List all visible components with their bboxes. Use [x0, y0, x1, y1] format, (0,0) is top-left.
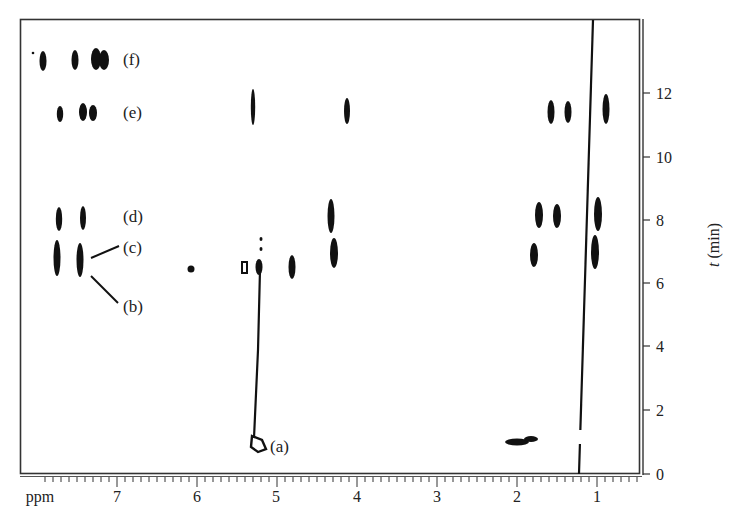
label-c: (c) — [123, 238, 142, 257]
leader-line-b — [91, 276, 118, 303]
y-axis-title: t (min) — [705, 223, 723, 267]
nmr-contour-chart: 0 2 4 6 8 10 12 t (min) ppm 7 6 5 4 3 2 … — [0, 0, 739, 529]
annotation-labels: (f) (e) (d) (c) (b) (a) — [123, 50, 289, 456]
label-d: (d) — [123, 207, 143, 226]
y-label-8: 8 — [656, 212, 664, 229]
label-a: (a) — [270, 437, 289, 456]
y-label-0: 0 — [656, 466, 664, 483]
label-f: (f) — [123, 50, 140, 69]
peak-a-contour — [251, 436, 266, 452]
y-label-4: 4 — [656, 338, 664, 355]
label-e: (e) — [123, 103, 142, 122]
plot-frame — [21, 20, 640, 474]
drift-line-a — [254, 270, 260, 438]
y-axis-labels: 0 2 4 6 8 10 12 — [656, 85, 672, 483]
x-label-2: 2 — [513, 488, 521, 505]
x-axis-ticks — [45, 477, 637, 487]
y-axis-ticks — [643, 93, 650, 474]
x-label-7: 7 — [113, 488, 121, 505]
y-label-10: 10 — [656, 149, 672, 166]
peak-contour-5-4ppm — [242, 262, 247, 273]
label-b: (b) — [123, 297, 143, 316]
y-label-2: 2 — [656, 402, 664, 419]
x-axis-labels: ppm 7 6 5 4 3 2 1 — [26, 488, 601, 506]
x-label-4: 4 — [353, 488, 361, 505]
x-label-6: 6 — [193, 488, 201, 505]
y-label-12: 12 — [656, 85, 672, 102]
y-label-6: 6 — [656, 275, 664, 292]
x-label-1: 1 — [593, 488, 601, 505]
leader-line-c — [91, 246, 119, 258]
x-label-5: 5 — [272, 488, 280, 505]
reference-line — [579, 20, 593, 474]
x-label-3: 3 — [433, 488, 441, 505]
x-unit-label: ppm — [26, 488, 55, 506]
